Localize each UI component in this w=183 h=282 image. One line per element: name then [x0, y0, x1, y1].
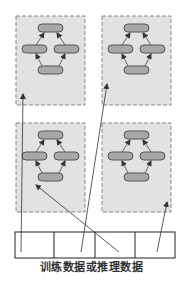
- model-box-bottom-left: [16, 123, 85, 212]
- diagram-canvas: [0, 0, 183, 282]
- model-box-top-right: [102, 16, 171, 105]
- caption: 训练数据或推理数据: [0, 258, 183, 274]
- data-bar: [15, 232, 175, 258]
- model-box-top-left: [16, 16, 85, 105]
- model-box-bottom-right: [102, 123, 171, 212]
